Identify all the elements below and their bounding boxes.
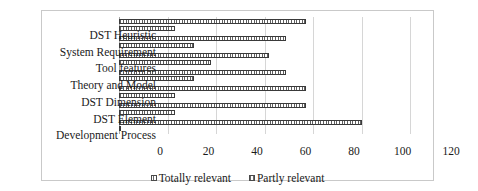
- bar-totally-relevant: [119, 19, 306, 24]
- legend-item[interactable]: Totally relevant: [151, 172, 231, 184]
- category-label: DST Dimension: [81, 94, 156, 111]
- bar-row: [119, 50, 410, 67]
- legend-item[interactable]: Partly relevant: [249, 172, 324, 184]
- bar-row: [119, 34, 410, 51]
- x-tick-label: 80: [348, 145, 360, 157]
- legend-swatch-icon: [151, 175, 157, 181]
- category-label: Development Process: [56, 127, 156, 144]
- category-label: DST Heuristic: [89, 27, 156, 44]
- bar-row: [119, 117, 410, 134]
- category-label: System Requirement: [60, 44, 156, 61]
- x-tick-label: 0: [157, 145, 163, 157]
- bar-row: [119, 67, 410, 84]
- x-tick-label: 40: [251, 145, 263, 157]
- chart-legend: Totally relevantPartly relevant: [42, 172, 433, 184]
- bar-row: [119, 101, 410, 118]
- category-label: Tool features: [96, 60, 156, 77]
- gridline-120: [410, 17, 411, 134]
- value-axis-labels: 020406080100120: [160, 145, 451, 161]
- category-axis-labels: DST HeuristicSystem RequirementTool feat…: [83, 27, 160, 144]
- legend-swatch-icon: [249, 175, 255, 181]
- bar-row: [119, 17, 410, 34]
- x-tick-label: 20: [203, 145, 215, 157]
- legend-label: Totally relevant: [159, 172, 231, 184]
- category-label: DST Element: [93, 111, 156, 128]
- bar-row: [119, 84, 410, 101]
- category-label: Theory and Model: [70, 77, 156, 94]
- x-tick-label: 60: [300, 145, 312, 157]
- x-tick-label: 100: [394, 145, 411, 157]
- legend-label: Partly relevant: [257, 172, 324, 184]
- chart-frame: DST HeuristicSystem RequirementTool feat…: [41, 10, 434, 181]
- x-tick-label: 120: [442, 145, 459, 157]
- plot-area: [119, 17, 410, 134]
